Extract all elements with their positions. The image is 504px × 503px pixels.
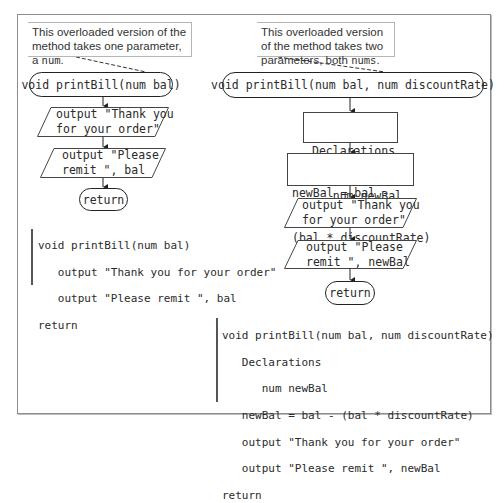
right-output1-line2: for your order" — [302, 213, 417, 228]
right-code-line: void printBill(num bal, num discountRate… — [222, 329, 494, 342]
left-start-terminal: void printBill(num bal) — [29, 72, 173, 97]
right-output1-line1: output "Thank you — [302, 198, 417, 213]
left-output1-line1: output "Thank you — [56, 107, 169, 122]
right-code-bar — [216, 318, 218, 402]
right-pseudocode: void printBill(num bal, num discountRate… — [222, 316, 494, 503]
left-return-terminal: return — [79, 188, 128, 211]
left-callout-note: This overloaded version of the method ta… — [28, 22, 192, 57]
right-output2-line1: output "Please — [306, 240, 417, 255]
left-output-thankyou: output "Thank you for your order" — [37, 107, 169, 137]
right-code-line: return — [222, 489, 494, 502]
left-code-line: output "Thank you for your order" — [38, 266, 276, 279]
left-callout-type: num — [42, 54, 61, 66]
right-declarations-box: Declarations num newBal — [303, 112, 398, 143]
right-return-terminal: return — [325, 281, 375, 305]
right-output2-line2: remit ", newBal — [306, 255, 417, 270]
left-output-remit: output "Please remit ", bal — [40, 148, 166, 178]
right-newbal-process-box: newBal = bal - (bal * discountRate) — [287, 153, 414, 186]
right-callout-type: nums — [351, 54, 376, 66]
left-return-label: return — [83, 193, 125, 207]
left-output2-line2: remit ", bal — [62, 163, 166, 178]
left-output2-line1: output "Please — [62, 148, 166, 163]
right-code-line: newBal = bal - (bal * discountRate) — [222, 409, 494, 422]
left-start-label: void printBill(num bal) — [21, 78, 180, 92]
right-output-thankyou: output "Thank you for your order" — [284, 198, 417, 228]
right-code-line: num newBal — [222, 382, 494, 395]
right-start-label: void printBill(num bal, num discountRate… — [211, 78, 495, 92]
left-code-line: void printBill(num bal) — [38, 239, 276, 252]
right-callout-note: This overloaded version of the method ta… — [257, 22, 395, 57]
right-start-terminal: void printBill(num bal, num discountRate… — [222, 72, 484, 98]
left-output1-line2: for your order" — [56, 122, 169, 137]
right-code-line: output "Please remit ", newBal — [222, 462, 494, 475]
right-code-line: Declarations — [222, 356, 494, 369]
left-callout-period: . — [61, 54, 64, 66]
right-code-line: output "Thank you for your order" — [222, 436, 494, 449]
right-callout-period: . — [376, 54, 379, 66]
left-code-line: output "Please remit ", bal — [38, 292, 276, 305]
right-return-label: return — [329, 286, 371, 300]
left-code-bar — [31, 229, 33, 285]
right-output-remit: output "Please remit ", newBal — [284, 240, 417, 269]
